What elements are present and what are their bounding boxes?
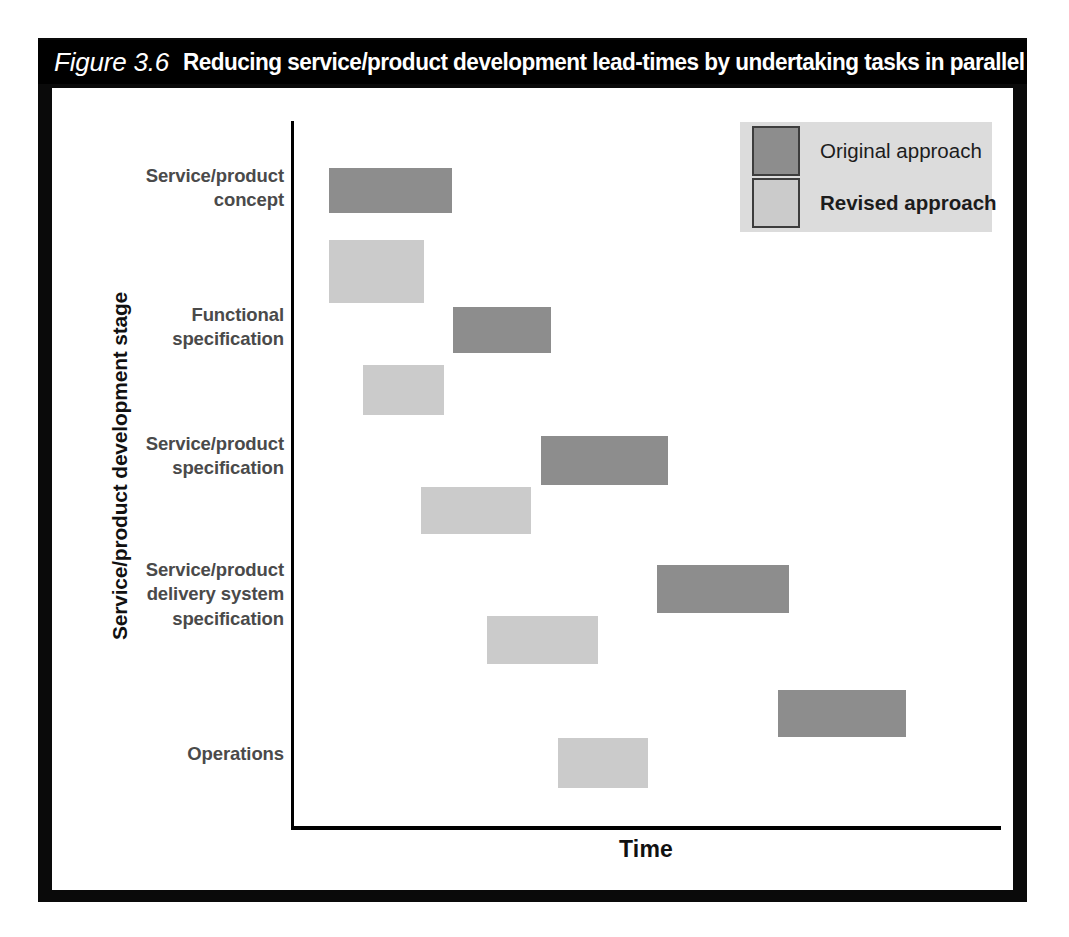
bar-revised-delivery-system-specification xyxy=(487,616,598,664)
bar-original-functional-specification xyxy=(453,307,551,353)
y-axis-line xyxy=(291,121,294,828)
category-label-operations: Operations xyxy=(34,742,284,766)
x-axis-line xyxy=(291,826,1001,830)
bar-original-service-product-specification xyxy=(541,436,668,485)
bar-original-service-product-concept xyxy=(329,168,452,213)
bar-revised-service-product-concept xyxy=(329,240,424,303)
chart-legend: Original approach Revised approach xyxy=(740,122,992,232)
bar-original-operations xyxy=(778,690,906,737)
figure-caption: Reducing service/product development lea… xyxy=(183,49,1025,76)
category-label-delivery-system-specification: Service/productdelivery systemspecificat… xyxy=(34,558,284,631)
figure-number: Figure 3.6 xyxy=(54,47,169,78)
bar-revised-service-product-specification xyxy=(421,487,531,534)
bar-revised-operations xyxy=(558,738,648,788)
legend-label-original-approach: Original approach xyxy=(820,139,982,163)
legend-swatch-revised-icon xyxy=(752,178,800,228)
category-label-functional-specification: Functionalspecification xyxy=(34,303,284,352)
legend-item-revised-approach: Revised approach xyxy=(752,178,997,228)
legend-item-original-approach: Original approach xyxy=(752,126,982,176)
category-label-service-product-concept: Service/productconcept xyxy=(34,164,284,213)
legend-swatch-original-icon xyxy=(752,126,800,176)
category-label-service-product-specification: Service/productspecification xyxy=(34,432,284,481)
bar-original-delivery-system-specification xyxy=(657,565,789,613)
figure-title-bar: Figure 3.6 Reducing service/product deve… xyxy=(38,40,1027,84)
figure-page: Figure 3.6 Reducing service/product deve… xyxy=(0,0,1069,937)
legend-label-revised-approach: Revised approach xyxy=(820,191,997,215)
chart-plot-panel: Service/product development stage Time S… xyxy=(52,88,1013,890)
bar-revised-functional-specification xyxy=(363,365,444,415)
x-axis-title: Time xyxy=(291,836,1001,863)
